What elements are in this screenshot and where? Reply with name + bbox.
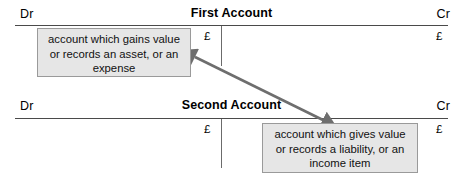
credit-label-first: Cr <box>436 7 450 21</box>
account-divider-first <box>221 26 222 66</box>
t-account-diagram: Dr First Account Cr £ £ Dr Second Accoun… <box>0 0 463 180</box>
account-block-second: Dr Second Account Cr <box>0 96 463 117</box>
credit-label-second: Cr <box>436 99 450 113</box>
callout-credit-line-1: account which gives value <box>263 127 417 142</box>
currency-symbol-first-credit: £ <box>436 31 442 43</box>
callout-debit-explanation: account which gains value or records an … <box>37 28 191 77</box>
callout-debit-line-1: account which gains value <box>38 32 190 47</box>
account-block-first: Dr First Account Cr <box>0 4 463 25</box>
account-divider-second <box>221 119 222 168</box>
callout-debit-line-2: or records an asset, or an <box>38 47 190 62</box>
account-rule-first <box>15 25 448 26</box>
account-title-first: First Account <box>0 6 463 20</box>
account-title-second: Second Account <box>0 98 463 112</box>
callout-credit-line-2: or records a liability, or an <box>263 142 417 157</box>
account-rule-second <box>15 118 448 119</box>
currency-symbol-second-credit: £ <box>436 124 442 136</box>
account-header-second: Dr Second Account Cr <box>0 96 463 117</box>
callout-debit-line-3: expense <box>38 61 190 76</box>
account-header-first: Dr First Account Cr <box>0 4 463 25</box>
currency-symbol-first-debit: £ <box>204 31 210 43</box>
callout-credit-explanation: account which gives value or records a l… <box>262 123 418 173</box>
callout-credit-line-3: income item <box>263 156 417 171</box>
currency-symbol-second-debit: £ <box>204 124 210 136</box>
